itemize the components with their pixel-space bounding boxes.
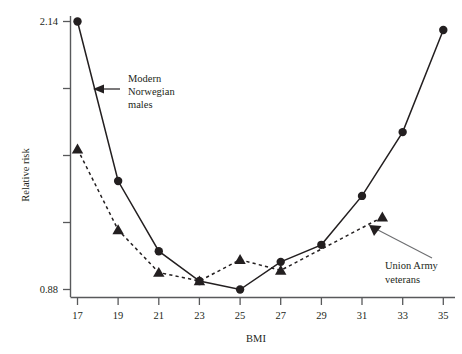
data-point-circle <box>195 277 203 285</box>
data-point-triangle <box>377 212 388 222</box>
data-point-circle <box>358 192 366 200</box>
series-union-army-veterans <box>72 144 388 286</box>
y-axis-title: Relative risk <box>20 148 31 202</box>
y-tick-labels: 2.14 0.88 <box>40 16 59 295</box>
x-tick-marks <box>78 298 444 306</box>
data-point-circle <box>439 26 447 34</box>
data-point-circle <box>277 258 285 266</box>
y-tick-label-max: 2.14 <box>40 16 59 27</box>
annotation-union-army-veterans: Union Army veterans <box>369 225 439 285</box>
data-point-triangle <box>275 265 286 275</box>
x-tick-label-21: 21 <box>154 310 165 321</box>
series-line-dashed <box>78 149 383 281</box>
x-tick-labels: 17 19 21 23 25 27 29 31 33 35 <box>72 310 448 321</box>
annotation-modern-line-3: males <box>128 99 153 110</box>
data-point-circle <box>236 285 244 293</box>
data-point-circle <box>398 128 406 136</box>
series-markers-triangle <box>72 144 388 286</box>
x-tick-label-31: 31 <box>357 310 368 321</box>
x-tick-label-23: 23 <box>194 310 205 321</box>
data-point-circle <box>114 177 122 185</box>
y-tick-label-min: 0.88 <box>40 284 58 295</box>
axis-group <box>71 16 456 298</box>
x-tick-label-33: 33 <box>397 310 408 321</box>
series-modern-norwegian-males <box>73 17 447 293</box>
x-tick-label-29: 29 <box>316 310 327 321</box>
x-tick-label-25: 25 <box>235 310 246 321</box>
series-line-solid <box>78 22 444 290</box>
annotation-union-line-1: Union Army <box>385 260 439 271</box>
y-tick-marks <box>63 22 71 290</box>
data-point-triangle <box>234 254 245 264</box>
data-point-triangle <box>72 144 83 154</box>
annotation-modern-line-2: Norwegian <box>128 86 175 97</box>
x-tick-label-19: 19 <box>113 310 124 321</box>
data-point-circle <box>155 247 163 255</box>
x-tick-label-17: 17 <box>72 310 83 321</box>
x-tick-label-35: 35 <box>438 310 449 321</box>
x-axis-title: BMI <box>246 333 266 344</box>
x-tick-label-27: 27 <box>275 310 286 321</box>
series-markers-circle <box>73 17 447 293</box>
annotation-modern-line-1: Modern <box>128 73 162 84</box>
data-point-circle <box>73 17 81 25</box>
chart-figure: 2.14 0.88 17 19 21 23 25 27 29 31 33 <box>0 0 462 354</box>
data-point-circle <box>317 241 325 249</box>
annotation-union-line-2: veterans <box>385 274 420 285</box>
data-point-triangle <box>112 224 123 234</box>
annotation-leader-line-union <box>378 230 432 258</box>
chart-plot-area: 2.14 0.88 17 19 21 23 25 27 29 31 33 <box>0 0 462 354</box>
annotation-modern-norwegian-males: Modern Norwegian males <box>93 73 175 110</box>
